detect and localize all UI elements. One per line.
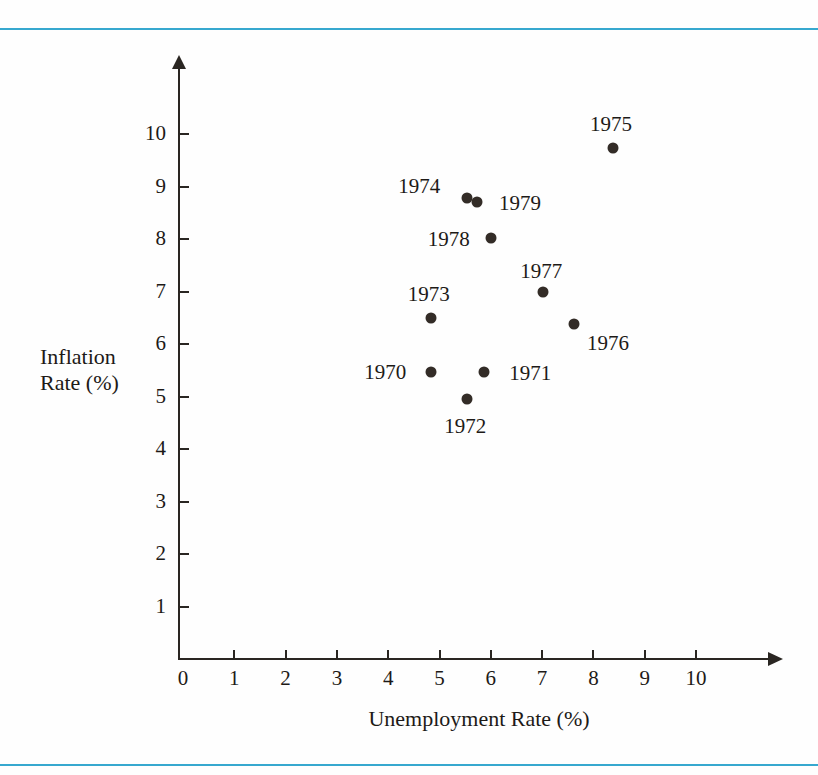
- data-point-label-1972: 1972: [444, 416, 486, 437]
- x-tick-label-4: 4: [368, 668, 408, 689]
- data-point-1979: [471, 197, 482, 208]
- data-point-label-1974: 1974: [398, 176, 440, 197]
- y-tick-label-8: 8: [126, 228, 166, 249]
- y-tick-10: [180, 133, 189, 135]
- y-tick-label-1: 1: [126, 596, 166, 617]
- y-tick-6: [180, 343, 189, 345]
- y-tick-7: [180, 291, 189, 293]
- x-tick-label-2: 2: [266, 668, 306, 689]
- data-point-label-1976: 1976: [587, 333, 629, 354]
- y-tick-8: [180, 238, 189, 240]
- x-tick-7: [541, 650, 543, 659]
- y-axis-title: Inflation Rate (%): [40, 344, 160, 396]
- x-tick-3: [336, 650, 338, 659]
- x-tick-label-6: 6: [471, 668, 511, 689]
- y-axis-line: [178, 66, 180, 660]
- data-point-label-1970: 1970: [364, 361, 406, 382]
- y-tick-5: [180, 396, 189, 398]
- y-tick-label-7: 7: [126, 281, 166, 302]
- data-point-label-1978: 1978: [428, 228, 470, 249]
- y-tick-label-4: 4: [126, 438, 166, 459]
- x-tick-2: [285, 650, 287, 659]
- x-tick-label-5: 5: [420, 668, 460, 689]
- data-point-label-1977: 1977: [520, 261, 562, 282]
- y-tick-4: [180, 448, 189, 450]
- x-tick-label-7: 7: [522, 668, 562, 689]
- x-tick-label-10: 10: [676, 668, 716, 689]
- data-point-label-1975: 1975: [590, 114, 632, 135]
- y-tick-label-10: 10: [126, 123, 166, 144]
- data-point-1975: [607, 143, 618, 154]
- x-axis-line: [178, 658, 770, 660]
- data-point-1976: [568, 319, 579, 330]
- y-tick-label-3: 3: [126, 491, 166, 512]
- x-tick-label-0: 0: [163, 668, 203, 689]
- x-tick-9: [644, 650, 646, 659]
- y-tick-1: [180, 606, 189, 608]
- data-point-1971: [479, 366, 490, 377]
- x-tick-5: [439, 650, 441, 659]
- x-tick-10: [695, 650, 697, 659]
- data-point-1977: [538, 287, 549, 298]
- y-tick-label-9: 9: [126, 176, 166, 197]
- x-tick-label-1: 1: [214, 668, 254, 689]
- x-tick-8: [592, 650, 594, 659]
- x-tick-label-3: 3: [317, 668, 357, 689]
- data-point-1970: [426, 366, 437, 377]
- data-point-1972: [462, 394, 473, 405]
- x-axis-title: Unemployment Rate (%): [289, 706, 669, 732]
- x-tick-4: [387, 650, 389, 659]
- x-axis-arrow-icon: [768, 652, 783, 666]
- x-tick-label-8: 8: [573, 668, 613, 689]
- y-axis-arrow-icon: [172, 55, 186, 69]
- y-tick-3: [180, 501, 189, 503]
- figure-page: 12345678910 012345678910 197019711972197…: [0, 0, 818, 775]
- x-tick-6: [490, 650, 492, 659]
- data-point-1973: [425, 312, 436, 323]
- x-tick-label-9: 9: [625, 668, 665, 689]
- data-point-label-1979: 1979: [499, 193, 541, 214]
- scatter-plot: 12345678910 012345678910 197019711972197…: [0, 0, 818, 775]
- y-tick-2: [180, 553, 189, 555]
- data-point-label-1973: 1973: [408, 283, 450, 304]
- data-point-1978: [485, 232, 496, 243]
- y-tick-9: [180, 186, 189, 188]
- data-point-label-1971: 1971: [509, 362, 551, 383]
- y-tick-label-2: 2: [126, 543, 166, 564]
- x-tick-1: [233, 650, 235, 659]
